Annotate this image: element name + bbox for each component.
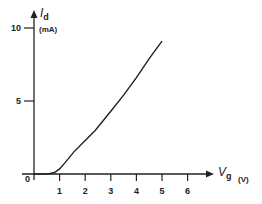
x-tick-label: 4 <box>134 186 139 196</box>
axes <box>22 10 214 180</box>
x-tick-label: 2 <box>83 186 88 196</box>
data-line <box>34 41 162 174</box>
y-axis-arrow-icon <box>31 10 38 18</box>
x-tick-label: 1 <box>57 186 62 196</box>
y-ticks: 510 <box>11 23 34 106</box>
x-axis-unit: (V) <box>238 175 249 184</box>
x-axis-label: Vg <box>218 165 232 181</box>
x-tick-label: 3 <box>108 186 113 196</box>
x-tick-label: 6 <box>185 186 190 196</box>
y-tick-label: 10 <box>11 23 21 33</box>
x-ticks: 123456 <box>57 174 190 196</box>
y-axis-label: Id <box>40 6 49 22</box>
y-tick-label: 5 <box>16 96 21 106</box>
origin-label: 0 <box>25 174 30 184</box>
x-tick-label: 5 <box>159 186 164 196</box>
y-axis-unit: (mA) <box>39 25 58 34</box>
x-axis-arrow-icon <box>206 171 214 178</box>
chart: 123456 510 0 Id (mA) Vg (V) <box>0 0 262 204</box>
